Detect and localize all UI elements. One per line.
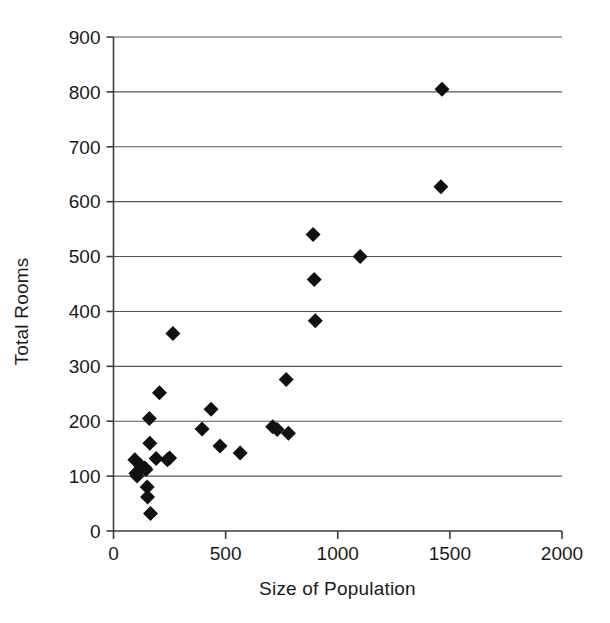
data-point-marker — [140, 489, 155, 504]
data-point-marker — [204, 402, 219, 417]
y-tick-label: 100 — [69, 466, 101, 487]
data-point-marker — [308, 313, 323, 328]
y-tick-label: 0 — [90, 521, 101, 542]
y-tick-label: 300 — [69, 356, 101, 377]
plot-area: 0100200300400500600700800900 05001000150… — [0, 0, 610, 623]
x-tick-label: 2000 — [541, 543, 583, 564]
y-tick-label: 700 — [69, 137, 101, 158]
x-tick-label: 500 — [210, 543, 242, 564]
data-point-marker — [307, 272, 322, 287]
data-markers-group — [127, 82, 449, 521]
y-tick-label: 200 — [69, 411, 101, 432]
data-point-marker — [142, 436, 157, 451]
data-point-marker — [195, 421, 210, 436]
data-point-marker — [435, 82, 450, 97]
x-tick-label: 1000 — [317, 543, 359, 564]
data-point-marker — [213, 438, 228, 453]
data-point-marker — [142, 411, 157, 426]
data-point-marker — [152, 385, 167, 400]
data-point-marker — [143, 506, 158, 521]
y-tick-label: 800 — [69, 82, 101, 103]
y-tick-labels-group: 0100200300400500600700800900 — [69, 27, 101, 542]
data-point-marker — [233, 446, 248, 461]
data-point-marker — [433, 179, 448, 194]
y-tick-label: 500 — [69, 246, 101, 267]
data-point-marker — [279, 372, 294, 387]
axis-lines-group — [114, 37, 563, 531]
data-point-marker — [353, 249, 368, 264]
data-point-marker — [165, 326, 180, 341]
y-tick-label: 900 — [69, 27, 101, 48]
y-tick-label: 600 — [69, 191, 101, 212]
x-tick-label: 1500 — [429, 543, 471, 564]
y-tick-label: 400 — [69, 301, 101, 322]
tickmarks-group — [107, 37, 563, 539]
scatter-chart: Total Rooms Size of Population 010020030… — [0, 0, 610, 623]
x-tick-label: 0 — [108, 543, 119, 564]
x-tick-labels-group: 0500100015002000 — [108, 543, 583, 564]
data-point-marker — [306, 227, 321, 242]
gridlines-group — [114, 37, 563, 476]
